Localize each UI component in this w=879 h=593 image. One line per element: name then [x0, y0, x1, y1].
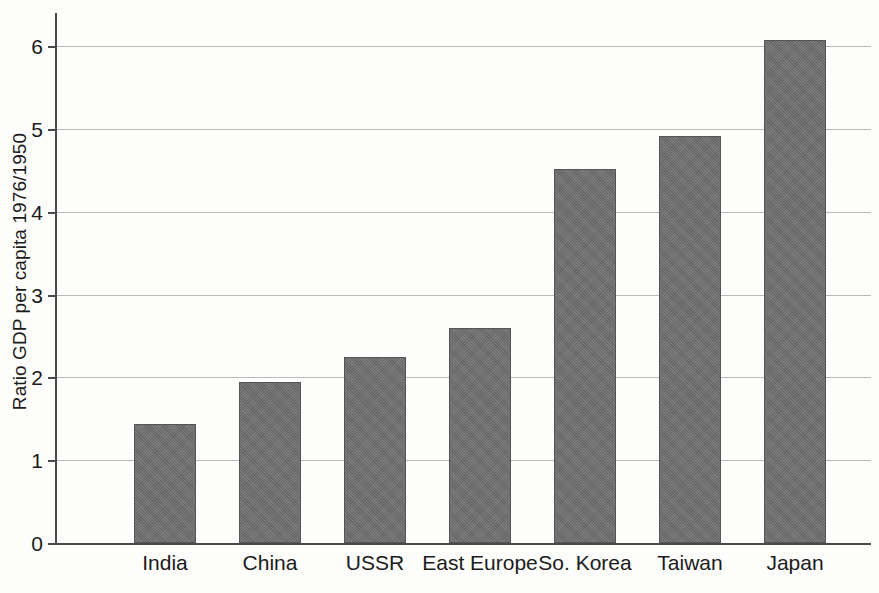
x-axis-label-taiwan: Taiwan: [657, 551, 722, 574]
y-tick-mark-5: [48, 129, 57, 131]
y-tick-label-1: 1: [31, 450, 43, 471]
x-axis-label-japan: Japan: [766, 551, 823, 574]
y-tick-label-3: 3: [31, 284, 43, 305]
bar-ussr: [344, 357, 406, 543]
y-tick-mark-4: [48, 212, 57, 214]
y-tick-mark-3: [48, 295, 57, 297]
y-tick-label-2: 2: [31, 367, 43, 388]
x-axis-label-east-europe: East Europe: [422, 551, 538, 574]
y-tick-label-0: 0: [31, 533, 43, 554]
y-tick-mark-1: [48, 460, 57, 462]
x-axis-label-china: China: [243, 551, 298, 574]
gridline-6: [57, 46, 871, 47]
x-axis-line: [55, 543, 871, 545]
gridline-3: [57, 295, 871, 296]
gridline-5: [57, 129, 871, 130]
x-axis-label-so-korea: So. Korea: [538, 551, 631, 574]
plot-area: 0123456: [57, 13, 871, 543]
y-tick-label-5: 5: [31, 118, 43, 139]
bar-india: [134, 424, 196, 543]
y-tick-mark-2: [48, 377, 57, 379]
y-axis-line: [55, 13, 57, 543]
bar-east-europe: [449, 328, 511, 543]
chart-figure: Ratio GDP per capita 1976/1950 0123456 I…: [0, 0, 879, 593]
y-tick-label-6: 6: [31, 36, 43, 57]
y-tick-label-4: 4: [31, 201, 43, 222]
bar-taiwan: [659, 136, 721, 543]
y-tick-mark-0: [48, 543, 57, 545]
gridline-4: [57, 212, 871, 213]
bar-so-korea: [554, 169, 616, 543]
x-axis-label-ussr: USSR: [346, 551, 404, 574]
bar-china: [239, 382, 301, 543]
x-axis-label-india: India: [142, 551, 188, 574]
bar-japan: [764, 40, 826, 543]
y-tick-mark-6: [48, 46, 57, 48]
